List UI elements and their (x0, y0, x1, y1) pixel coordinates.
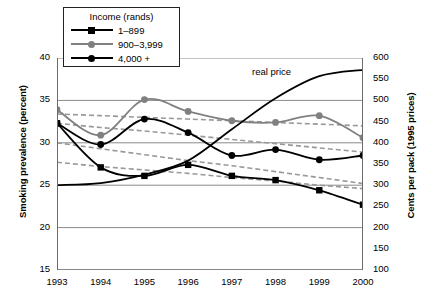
x-axis-tick-label: 1994 (79, 276, 123, 287)
chart-figure: Smoking prevalence (percent) Cents per p… (0, 0, 427, 305)
legend-swatch-mid-income (71, 38, 113, 50)
y-axis-left-tick-label: 30 (24, 136, 50, 147)
data-point-marker (272, 119, 279, 126)
y-axis-left-tick-label: 15 (24, 263, 50, 274)
y-axis-right-tick-label: 200 (373, 221, 403, 232)
data-point-marker (316, 112, 323, 119)
legend-swatch-low-income (71, 24, 113, 36)
data-point-marker (272, 177, 278, 183)
legend-swatch-high-income (71, 52, 113, 64)
legend: Income (rands) 1–899 900–3,999 4,000 + (63, 7, 180, 67)
legend-label-high-income: 4,000 + (113, 53, 150, 64)
data-point-marker (316, 187, 322, 193)
y-axis-left-tick-label: 35 (24, 93, 50, 104)
data-point-marker (97, 141, 104, 148)
data-point-marker (185, 129, 192, 136)
data-point-marker (97, 132, 104, 139)
x-axis-tick-label: 1997 (210, 276, 254, 287)
series-line-4-000- (57, 119, 363, 160)
circle-marker-icon (88, 41, 95, 48)
y-axis-right-tick-label: 500 (373, 93, 403, 104)
plot-area (57, 58, 363, 270)
y-axis-right-tick-label: 400 (373, 136, 403, 147)
x-axis-tick-label: 2000 (341, 276, 385, 287)
legend-item-mid-income[interactable]: 900–3,999 (64, 37, 179, 51)
y-axis-left-tick-label: 20 (24, 221, 50, 232)
y-axis-left-tick-label: 40 (24, 51, 50, 62)
y-axis-right-tick-label: 250 (373, 199, 403, 210)
data-point-marker (228, 152, 235, 159)
legend-label-low-income: 1–899 (113, 25, 144, 36)
y-axis-right-tick-label: 150 (373, 242, 403, 253)
x-axis-tick-label: 1995 (122, 276, 166, 287)
square-marker-icon (88, 27, 95, 34)
real-price-annotation: real price (252, 66, 291, 77)
data-point-marker (185, 108, 192, 115)
axis-spine-left (57, 58, 58, 270)
x-axis-tick-label: 1993 (35, 276, 79, 287)
circle-marker-icon (88, 55, 95, 62)
data-point-marker (316, 156, 323, 163)
data-point-marker (229, 173, 235, 179)
y-axis-right-tick-label: 100 (373, 263, 403, 274)
y-axis-right-tick-label: 550 (373, 72, 403, 83)
x-axis-tick-label: 1996 (166, 276, 210, 287)
data-point-marker (141, 96, 148, 103)
data-point-marker (228, 117, 235, 124)
y-axis-right-tick-label: 300 (373, 178, 403, 189)
data-point-marker (272, 146, 279, 153)
legend-item-low-income[interactable]: 1–899 (64, 23, 179, 37)
legend-label-mid-income: 900–3,999 (113, 39, 163, 50)
legend-title: Income (rands) (64, 11, 179, 22)
axis-spine-right (362, 58, 363, 270)
plot-svg (57, 58, 363, 270)
y-axis-left-tick-label: 25 (24, 178, 50, 189)
x-axis-tick-label: 1998 (254, 276, 298, 287)
y-axis-right-tick-label: 450 (373, 115, 403, 126)
x-axis-tick-label: 1999 (297, 276, 341, 287)
data-point-marker (98, 164, 104, 170)
trend-line-trend-lower (57, 143, 363, 184)
data-point-marker (141, 116, 148, 123)
y-axis-right-tick-label: 600 (373, 51, 403, 62)
legend-item-high-income[interactable]: 4,000 + (64, 51, 179, 65)
y-axis-right-title: Cents per pack (1995 prices) (405, 71, 416, 241)
y-axis-right-tick-label: 350 (373, 157, 403, 168)
